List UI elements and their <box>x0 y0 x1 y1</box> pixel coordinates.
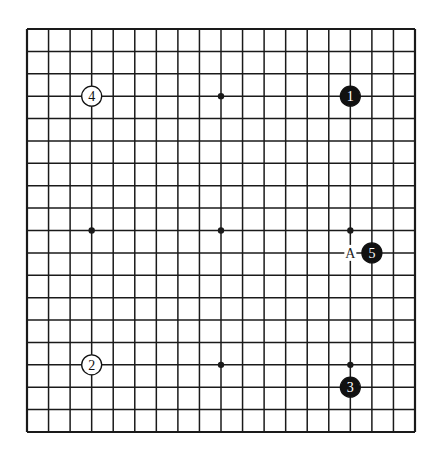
go-board[interactable]: A 12345 <box>0 0 441 458</box>
stone-black-move-5[interactable]: 5 <box>362 243 382 263</box>
svg-text:A: A <box>345 246 356 261</box>
stone-white-move-4[interactable]: 4 <box>82 86 102 106</box>
board-labels: A <box>344 245 356 261</box>
move-number: 5 <box>368 246 375 261</box>
stone-black-move-3[interactable]: 3 <box>340 377 360 397</box>
star-point <box>218 93 224 99</box>
star-point <box>347 227 353 233</box>
star-point <box>218 362 224 368</box>
move-number: 3 <box>347 380 354 395</box>
star-point <box>347 362 353 368</box>
move-number: 4 <box>88 89 95 104</box>
star-point <box>88 227 94 233</box>
move-number: 1 <box>347 89 354 104</box>
stone-black-move-1[interactable]: 1 <box>340 86 360 106</box>
move-number: 2 <box>88 358 95 373</box>
board-label: A <box>344 245 356 261</box>
stones: 12345 <box>82 86 382 397</box>
star-point <box>218 227 224 233</box>
stone-white-move-2[interactable]: 2 <box>82 355 102 375</box>
